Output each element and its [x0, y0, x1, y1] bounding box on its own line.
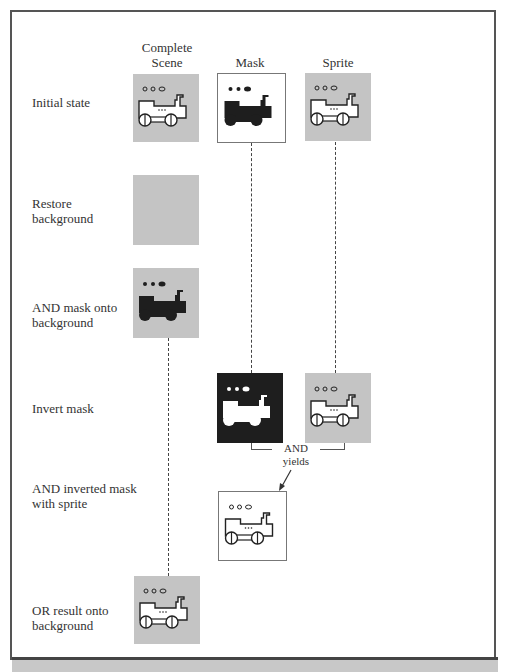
scene-initial-tile [133, 74, 199, 142]
locomotive-icon [133, 74, 199, 142]
connector-scene [168, 338, 169, 576]
label-line: background [32, 211, 93, 226]
row-label-invert-mask: Invert mask [32, 401, 94, 416]
label-line: with sprite [32, 496, 137, 511]
row-label-and-mask: AND mask onto background [32, 300, 117, 330]
locomotive-icon [134, 576, 200, 644]
column-header-complete-scene: Complete Scene [134, 40, 200, 70]
and-result-tile [218, 491, 287, 561]
scene-masked-tile [133, 268, 199, 338]
mask-tile [217, 73, 286, 143]
row-label-or-result: OR result onto background [32, 603, 109, 633]
column-header-line: Scene [134, 55, 200, 70]
locomotive-mask-icon [133, 268, 199, 338]
label-line: background [32, 618, 109, 633]
yields-label: yields [272, 455, 320, 468]
row-label-and-inverted: AND inverted mask with sprite [32, 481, 137, 511]
row-label-restore-background: Restore background [32, 196, 93, 226]
arrow-icon [276, 468, 296, 492]
bottom-bar [12, 657, 498, 672]
sprite-tile [305, 73, 371, 141]
label-line: background [32, 315, 117, 330]
inverted-mask-tile [217, 373, 283, 443]
final-scene-tile [134, 576, 200, 644]
locomotive-icon [219, 492, 286, 560]
locomotive-icon [305, 373, 371, 443]
column-header-mask: Mask [217, 55, 283, 70]
label-line: Invert mask [32, 401, 94, 416]
label-line: OR result onto [32, 603, 109, 618]
connector-sprite [335, 142, 336, 373]
locomotive-mask-icon [218, 74, 285, 142]
background-tile [133, 175, 199, 245]
and-label: AND [272, 442, 320, 455]
column-header-sprite: Sprite [305, 55, 371, 70]
row-label-initial-state: Initial state [32, 95, 90, 110]
and-yields-label: AND yields [272, 442, 320, 468]
label-line: Initial state [32, 95, 90, 110]
connector-mask [251, 143, 252, 373]
label-line: AND mask onto [32, 300, 117, 315]
label-line: Restore [32, 196, 93, 211]
column-header-line: Complete [134, 40, 200, 55]
locomotive-inverted-icon [217, 373, 283, 443]
sprite-tile-2 [305, 373, 371, 443]
label-line: AND inverted mask [32, 481, 137, 496]
locomotive-icon [305, 73, 371, 141]
